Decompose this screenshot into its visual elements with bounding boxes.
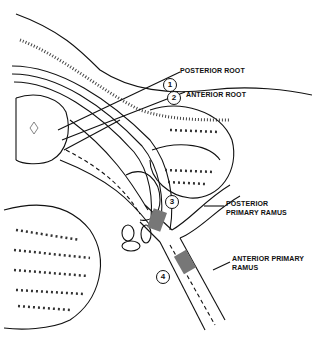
- label-anterior-primary-ramus-line2: RAMUS: [232, 264, 258, 272]
- label-anterior-primary-ramus-line1: ANTERIOR PRIMARY: [232, 255, 304, 263]
- marker-2: 2: [167, 91, 181, 105]
- marker-3: 3: [165, 195, 179, 209]
- marker-1: 1: [163, 78, 177, 92]
- marker-4: 4: [156, 270, 170, 284]
- label-anterior-root: ANTERIOR ROOT: [186, 91, 246, 99]
- label-posterior-primary-ramus-line1: POSTERIOR: [226, 200, 268, 208]
- label-posterior-root: POSTERIOR ROOT: [180, 67, 245, 75]
- anatomy-drawing: [0, 0, 312, 338]
- label-posterior-primary-ramus-line2: PRIMARY RAMUS: [226, 209, 287, 217]
